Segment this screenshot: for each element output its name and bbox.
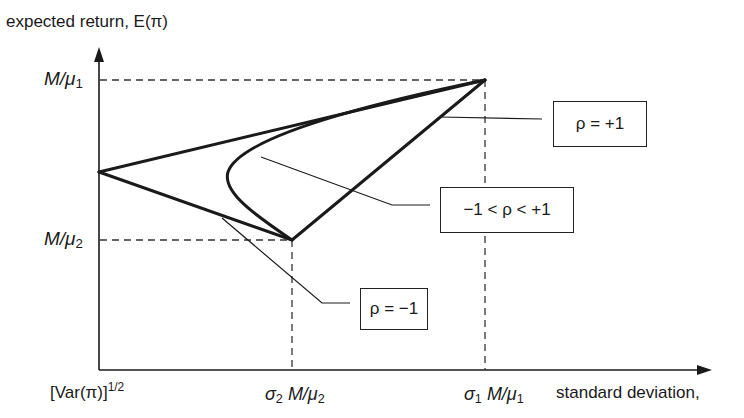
leader-rho-plus-one xyxy=(440,117,542,119)
rho-minus-one-lower-line xyxy=(99,172,292,240)
x-tick-sigma2-symbol: σ xyxy=(265,384,276,404)
leader-rho-between xyxy=(261,157,430,205)
x-tick-sigma1-sub: 1 xyxy=(475,392,482,406)
y-tick-mu2-sub: 2 xyxy=(76,236,83,251)
y-tick-mu2-text: M/μ xyxy=(44,228,76,249)
x-tick-sigma2-text: M/μ xyxy=(283,384,318,404)
x-tick-sigma1-mu-sub: 1 xyxy=(517,392,524,406)
portfolio-frontier-diagram xyxy=(0,0,744,418)
y-tick-mu1: M/μ1 xyxy=(44,68,83,91)
y-tick-mu2: M/μ2 xyxy=(44,228,83,251)
x-tick-var-sup: 1/2 xyxy=(108,380,125,394)
annotation-rho-minus-one-text: ρ = −1 xyxy=(370,299,418,319)
x-tick-sigma2-sub: 2 xyxy=(276,392,283,406)
annotation-rho-plus-one-text: ρ = +1 xyxy=(576,114,624,134)
x-axis-title: standard deviation, xyxy=(556,383,700,403)
y-axis-title: expected return, E(π) xyxy=(6,12,168,32)
annotation-rho-between: −1 < ρ < +1 xyxy=(440,187,574,233)
y-tick-mu1-text: M/μ xyxy=(44,68,76,89)
annotation-rho-plus-one: ρ = +1 xyxy=(553,101,647,147)
leader-rho-minus-one xyxy=(222,218,350,303)
annotation-rho-between-text: −1 < ρ < +1 xyxy=(463,200,550,220)
y-tick-mu1-sub: 1 xyxy=(76,76,83,91)
x-tick-sigma1: σ1 M/μ1 xyxy=(464,384,524,406)
x-tick-var-text: [Var(π)] xyxy=(50,383,108,402)
x-tick-sigma2-mu-sub: 2 xyxy=(318,392,325,406)
y-axis-arrow-icon xyxy=(94,47,104,62)
x-tick-sigma1-symbol: σ xyxy=(464,384,475,404)
annotation-rho-minus-one: ρ = −1 xyxy=(360,288,428,330)
x-tick-var: [Var(π)]1/2 xyxy=(50,380,124,403)
x-axis-arrow-icon xyxy=(697,365,712,375)
x-tick-sigma2: σ2 M/μ2 xyxy=(265,384,325,406)
x-tick-sigma1-text: M/μ xyxy=(482,384,517,404)
